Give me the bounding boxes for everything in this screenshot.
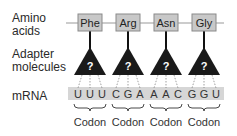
mrna-base: G xyxy=(188,88,197,100)
mrna-base: A xyxy=(136,88,144,100)
question-mark-icon: ? xyxy=(163,60,170,72)
codon-label: Codon xyxy=(150,116,182,128)
codon-brace xyxy=(150,104,182,111)
question-mark-icon: ? xyxy=(87,60,94,72)
amino-acid-label: Asn xyxy=(157,17,176,29)
base-pairing-line xyxy=(136,75,140,88)
question-mark-icon: ? xyxy=(125,60,132,72)
mrna-base: U xyxy=(98,88,106,100)
mrna-base: A xyxy=(162,88,170,100)
base-pairing-line xyxy=(212,75,216,88)
amino-acid-label: Phe xyxy=(80,17,100,29)
mrna-base: G xyxy=(200,88,209,100)
amino-acid-label: Arg xyxy=(119,17,136,29)
codon-label: Codon xyxy=(112,116,144,128)
amino-acid-label: Gly xyxy=(196,17,213,29)
mrna-base: U xyxy=(86,88,94,100)
mrna-base: U xyxy=(212,88,220,100)
codon-brace xyxy=(112,104,144,111)
base-pairing-line xyxy=(78,75,82,88)
mrna-base: C xyxy=(112,88,120,100)
base-pairing-line xyxy=(174,75,178,88)
mrna-base: U xyxy=(74,88,82,100)
base-pairing-line xyxy=(192,75,196,88)
mrna-base: C xyxy=(174,88,182,100)
translation-diagram: Phe?UUUCodonArg?CGACodonAsn?AACCodonGly?… xyxy=(0,0,237,136)
codon-label: Codon xyxy=(74,116,106,128)
base-pairing-line xyxy=(154,75,158,88)
codon-brace xyxy=(74,104,106,111)
base-pairing-line xyxy=(116,75,120,88)
codon-brace xyxy=(188,104,220,111)
codon-label: Codon xyxy=(188,116,220,128)
mrna-base: G xyxy=(124,88,133,100)
question-mark-icon: ? xyxy=(201,60,208,72)
mrna-base: A xyxy=(150,88,158,100)
base-pairing-line xyxy=(98,75,102,88)
